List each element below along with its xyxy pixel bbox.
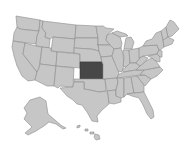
hawaii-island-big[interactable] <box>94 134 100 140</box>
state-michigan[interactable] <box>124 37 134 49</box>
state-north-dakota[interactable] <box>75 25 98 38</box>
state-montana[interactable] <box>42 21 76 39</box>
state-maine[interactable] <box>166 20 179 37</box>
us-map-svg <box>0 0 193 147</box>
state-colorado[interactable] <box>56 52 80 68</box>
state-alaska[interactable] <box>24 97 66 135</box>
hawaii-island-oahu[interactable] <box>85 129 88 131</box>
state-alaska-mainland[interactable] <box>24 97 66 135</box>
hawaii-island-maui[interactable] <box>90 132 94 134</box>
state-new-mexico[interactable] <box>54 66 74 88</box>
state-kansas[interactable] <box>80 62 103 79</box>
state-hawaii[interactable] <box>77 125 100 140</box>
state-florida[interactable] <box>127 92 154 119</box>
state-wyoming[interactable] <box>51 37 75 53</box>
us-map: United States <box>0 0 193 147</box>
hawaii-island-kauai[interactable] <box>77 125 80 128</box>
